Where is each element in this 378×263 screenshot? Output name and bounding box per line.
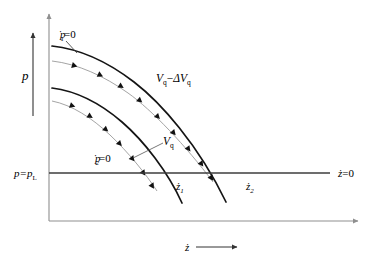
y-axis-label-group: p xyxy=(21,33,33,116)
axes-group xyxy=(49,14,358,221)
zdot2-sub: 2 xyxy=(250,187,254,195)
p-equals-pl-sub: L xyxy=(32,174,36,182)
pdot2-label: ṗ2=0 xyxy=(94,152,111,167)
intersection-labels-group: ż1 ż2 xyxy=(175,180,254,195)
p-equals-pl-label-group: p=pL xyxy=(13,167,37,182)
lower-trajectory-line xyxy=(52,101,157,191)
vq-sub: q xyxy=(170,141,174,150)
zdot-eq0-eq: =0 xyxy=(342,167,354,179)
vq-label-group: Vq xyxy=(163,135,174,150)
zdot-equals-zero-label-group: ż=0 xyxy=(337,167,354,179)
pdot2-eq: =0 xyxy=(99,152,111,164)
zdot1-sub: 1 xyxy=(180,187,184,195)
pdot1-label: ṗ1=0 xyxy=(59,28,76,43)
y-axis-label: p xyxy=(21,68,29,83)
zdot2-label: ż2 xyxy=(245,180,254,195)
x-axis-label: ż xyxy=(184,241,190,253)
vq-minus-dvq-label: Vq−ΔVq xyxy=(156,72,191,87)
zdot-equals-zero-label: ż=0 xyxy=(337,167,354,179)
pdot1-leader-line xyxy=(66,41,77,53)
phase-plane-figure: p ż xyxy=(0,0,378,263)
x-axis-label-group: ż xyxy=(184,241,237,253)
diagram-canvas: p ż xyxy=(0,0,378,263)
upper-trajectory-arrowheads xyxy=(71,62,215,182)
curve-vq-minus-dvq xyxy=(52,46,226,202)
pdot1-eq: =0 xyxy=(64,28,76,40)
p-equals-pl-label: p=pL xyxy=(13,167,37,182)
lower-trajectory-group xyxy=(52,101,157,191)
p-equals-pl-base: p=p xyxy=(13,167,33,179)
vq-label: Vq xyxy=(163,135,174,150)
upper-trajectory-group xyxy=(52,61,216,182)
vq-minus-dvq-label-group: Vq−ΔVq xyxy=(156,72,191,87)
vq-minus-dvq-sub2: q xyxy=(187,78,191,87)
pdot2-leader-line xyxy=(133,143,163,158)
